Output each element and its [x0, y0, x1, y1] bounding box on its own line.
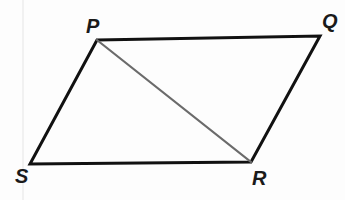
parallelogram-outline — [30, 36, 320, 164]
vertex-label-r: R — [252, 168, 266, 188]
diagonal-segment-pr — [97, 40, 251, 162]
parallelogram-svg — [0, 0, 345, 200]
vertex-label-p: P — [86, 16, 99, 36]
geometry-figure-canvas: P Q R S — [0, 0, 345, 200]
vertex-label-s: S — [15, 166, 28, 186]
vertex-label-q: Q — [322, 11, 338, 31]
